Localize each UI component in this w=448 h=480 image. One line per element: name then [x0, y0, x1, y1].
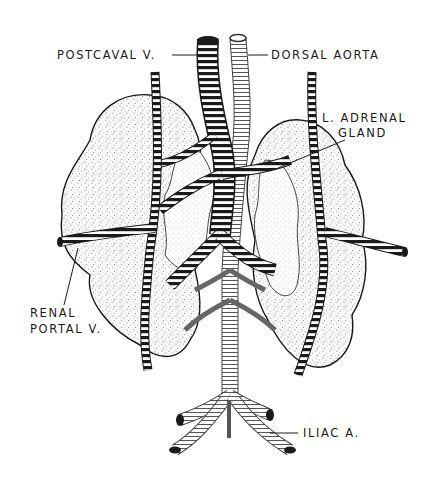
label-adrenal-line2: GLAND — [338, 126, 387, 140]
label-adrenal-line1: L. ADRENAL — [322, 111, 407, 125]
label-renal-portal-line2: PORTAL V. — [30, 322, 102, 336]
label-renal-portal-line1: RENAL — [30, 306, 76, 320]
label-dorsal-aorta: DORSAL AORTA — [271, 48, 379, 62]
iliac-arteries — [169, 395, 296, 454]
label-postcaval-vein: POSTCAVAL V. — [57, 48, 156, 62]
anatomical-illustration — [0, 0, 448, 480]
label-iliac-artery: ILIAC A. — [303, 426, 360, 440]
